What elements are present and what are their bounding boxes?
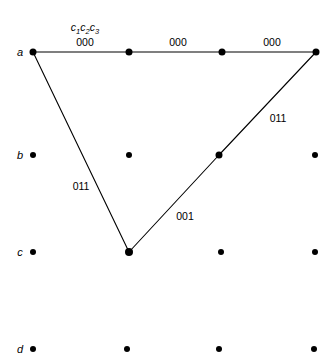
edge-c2-b3 bbox=[129, 155, 219, 252]
node-d3 bbox=[216, 346, 222, 352]
edge-label-000-3: 000 bbox=[263, 37, 281, 48]
node-d2 bbox=[124, 346, 130, 352]
row-label-c: c bbox=[17, 247, 23, 258]
node-b3 bbox=[216, 152, 223, 159]
node-d4 bbox=[311, 346, 317, 352]
node-c2 bbox=[125, 248, 133, 256]
edge-b3-a4 bbox=[219, 52, 316, 155]
node-a1 bbox=[30, 49, 37, 56]
edge-label-000-2: 000 bbox=[169, 37, 187, 48]
node-b2 bbox=[126, 152, 132, 158]
edge-label-011-left: 011 bbox=[73, 181, 90, 192]
row-label-d: d bbox=[17, 344, 23, 355]
edge-lines-layer bbox=[0, 0, 336, 362]
node-a2 bbox=[126, 49, 133, 56]
edge-label-001-mid: 001 bbox=[176, 211, 194, 222]
node-a4 bbox=[313, 49, 320, 56]
edge-label-000-1: 000 bbox=[76, 37, 94, 48]
node-c1 bbox=[30, 249, 36, 255]
node-b1 bbox=[30, 152, 36, 158]
edge-label-011-right: 011 bbox=[270, 113, 287, 124]
node-c4 bbox=[312, 249, 318, 255]
sequence-header-label: c1c2c3 bbox=[71, 22, 99, 36]
node-c3 bbox=[218, 249, 224, 255]
edge-a1-c2 bbox=[33, 52, 129, 252]
row-label-b: b bbox=[17, 150, 23, 161]
trellis-diagram: abcd c1c2c3 000000000011001011 bbox=[0, 0, 336, 362]
node-b4 bbox=[312, 152, 318, 158]
node-d1 bbox=[30, 346, 36, 352]
node-a3 bbox=[219, 49, 226, 56]
row-label-a: a bbox=[17, 47, 23, 58]
